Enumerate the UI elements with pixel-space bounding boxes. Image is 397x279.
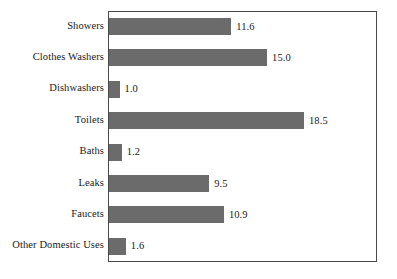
bar [109, 206, 224, 223]
plot-area-frame: 11.615.01.018.51.29.510.91.6 [108, 11, 377, 262]
bar-value-label: 15.0 [272, 52, 291, 64]
bar [109, 175, 209, 192]
bar [109, 238, 126, 255]
bar-value-label: 1.6 [131, 240, 144, 252]
category-label: Dishwashers [0, 82, 104, 94]
bar [109, 49, 267, 66]
bar [109, 112, 304, 129]
bar-value-label: 9.5 [214, 178, 227, 190]
bar-value-label: 10.9 [229, 209, 248, 221]
category-label: Toilets [0, 114, 104, 126]
category-label: Leaks [0, 177, 104, 189]
category-label-axis: ShowersClothes WashersDishwashersToilets… [0, 11, 104, 262]
bar-value-label: 1.2 [127, 146, 140, 158]
category-label: Other Domestic Uses [0, 239, 104, 251]
category-label: Showers [0, 20, 104, 32]
bars-layer: 11.615.01.018.51.29.510.91.6 [109, 12, 376, 261]
bar [109, 81, 120, 98]
bar [109, 144, 122, 161]
bar-value-label: 11.6 [236, 21, 254, 33]
bar-value-label: 18.5 [309, 115, 328, 127]
category-label: Clothes Washers [0, 51, 104, 63]
category-label: Baths [0, 145, 104, 157]
bar [109, 18, 231, 35]
category-label: Faucets [0, 208, 104, 220]
bar-value-label: 1.0 [125, 83, 138, 95]
chart-canvas: ShowersClothes WashersDishwashersToilets… [0, 0, 397, 279]
